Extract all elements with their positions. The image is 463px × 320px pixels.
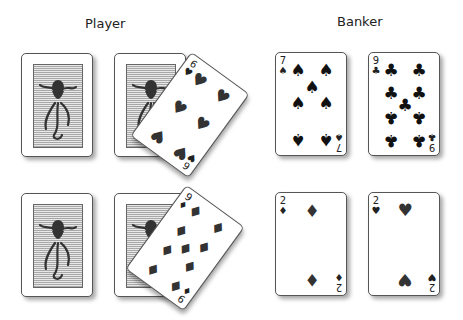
spade-pip: ♠ bbox=[318, 131, 333, 148]
banker-card-2-diamonds[interactable]: 2♦ 2♦ ♦ ♦ bbox=[275, 192, 347, 296]
heart-pip: ♥ bbox=[148, 124, 170, 147]
club-pip: ♣ bbox=[383, 62, 398, 79]
banker-card-7-spades[interactable]: 7♠ 7♠ ♠ ♠ ♠ ♠ ♠ ♠ ♠ bbox=[275, 52, 347, 156]
spade-pip: ♠ bbox=[318, 62, 333, 79]
club-pip: ♣ bbox=[383, 85, 398, 102]
spade-pip: ♠ bbox=[304, 79, 319, 96]
card-index-bottom: 9♣ bbox=[427, 132, 437, 152]
club-pip: ♣ bbox=[397, 97, 412, 114]
club-pip: ♣ bbox=[411, 109, 426, 126]
club-pip: ♣ bbox=[383, 109, 398, 126]
diamond-pip: ♦ bbox=[142, 259, 164, 282]
spade-pip: ♠ bbox=[290, 95, 305, 112]
heart-pip: ♥ bbox=[397, 271, 412, 288]
player-card-back-1[interactable] bbox=[21, 53, 93, 157]
diamond-pip: ♦ bbox=[178, 256, 200, 279]
diamond-pip: ♦ bbox=[156, 240, 178, 263]
diamond-pip: ♦ bbox=[304, 271, 319, 288]
heart-pip: ♥ bbox=[168, 97, 190, 120]
card-index-top: 2♥ bbox=[371, 196, 381, 216]
spade-pip: ♠ bbox=[318, 95, 333, 112]
club-pip: ♣ bbox=[383, 132, 398, 149]
card-index-top: 2♦ bbox=[278, 196, 288, 216]
club-pip: ♣ bbox=[411, 85, 426, 102]
octopus-back-design bbox=[33, 64, 83, 148]
diamond-pip: ♦ bbox=[304, 203, 319, 220]
heart-pip: ♥ bbox=[210, 86, 232, 109]
card-index-top: 9♣ bbox=[371, 56, 381, 76]
card-index-top: 7♠ bbox=[278, 56, 288, 76]
octopus-icon bbox=[34, 205, 82, 287]
card-index-bottom: 2♦ bbox=[334, 272, 344, 292]
spade-pip: ♠ bbox=[290, 131, 305, 148]
spade-pip: ♠ bbox=[290, 62, 305, 79]
card-index-bottom: 7♠ bbox=[334, 132, 344, 152]
club-pip: ♣ bbox=[411, 62, 426, 79]
banker-label: Banker bbox=[337, 14, 383, 29]
club-pip: ♣ bbox=[411, 132, 426, 149]
diamond-pip: ♦ bbox=[192, 237, 214, 260]
heart-pip: ♥ bbox=[190, 113, 212, 136]
banker-card-2-hearts[interactable]: 2♥ 2♥ ♥ ♥ bbox=[368, 192, 440, 296]
banker-card-9-clubs[interactable]: 9♣ 9♣ ♣ ♣ ♣ ♣ ♣ ♣ ♣ ♣ ♣ bbox=[368, 52, 440, 156]
player-label: Player bbox=[85, 16, 125, 31]
octopus-icon bbox=[34, 65, 82, 147]
player-card-back-3[interactable] bbox=[21, 193, 93, 297]
card-index-bottom: 2♥ bbox=[427, 272, 437, 292]
octopus-back-design bbox=[33, 204, 83, 288]
diamond-pip: ♦ bbox=[207, 217, 229, 240]
heart-pip: ♥ bbox=[397, 202, 412, 219]
